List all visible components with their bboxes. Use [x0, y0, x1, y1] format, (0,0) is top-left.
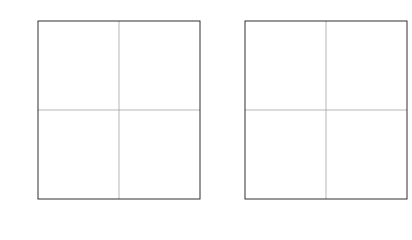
panel-a-svg [0, 0, 206, 240]
panel-b-svg [206, 0, 412, 240]
panel-a [0, 0, 206, 240]
panel-b [206, 0, 412, 240]
phase-portrait-figure [0, 0, 412, 240]
